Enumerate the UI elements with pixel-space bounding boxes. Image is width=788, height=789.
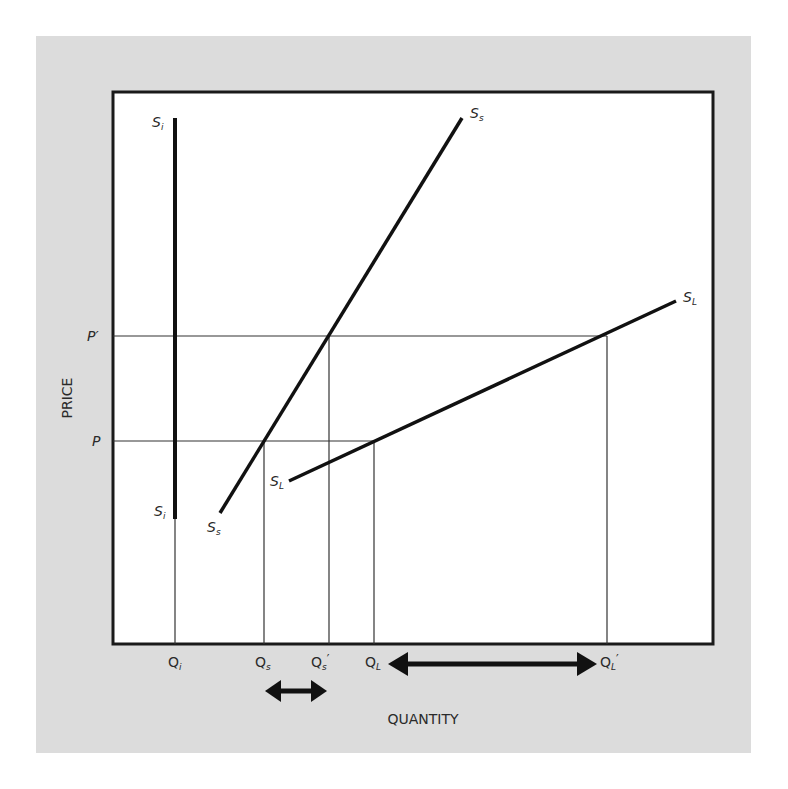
quantity-label-qi: Qi (168, 654, 182, 672)
quantity-label-qs: Qs (255, 654, 271, 672)
price-label-p-prime: P′ (87, 328, 99, 344)
quantity-label-ql-prime: QL′ (600, 652, 619, 672)
quantity-label-qs-prime: Qs′ (311, 652, 330, 672)
supply-elasticity-diagram: Si Si Ss Ss SL SL P′ P PRICE Qi Qs Qs′ Q… (0, 0, 788, 789)
plot-frame (113, 92, 713, 644)
price-label-p: P (92, 433, 101, 449)
short-run-double-arrow (265, 680, 327, 702)
y-axis-label: PRICE (59, 378, 75, 419)
quantity-label-ql: QL (365, 654, 381, 672)
long-run-double-arrow (388, 652, 597, 676)
x-axis-label: QUANTITY (387, 711, 459, 727)
